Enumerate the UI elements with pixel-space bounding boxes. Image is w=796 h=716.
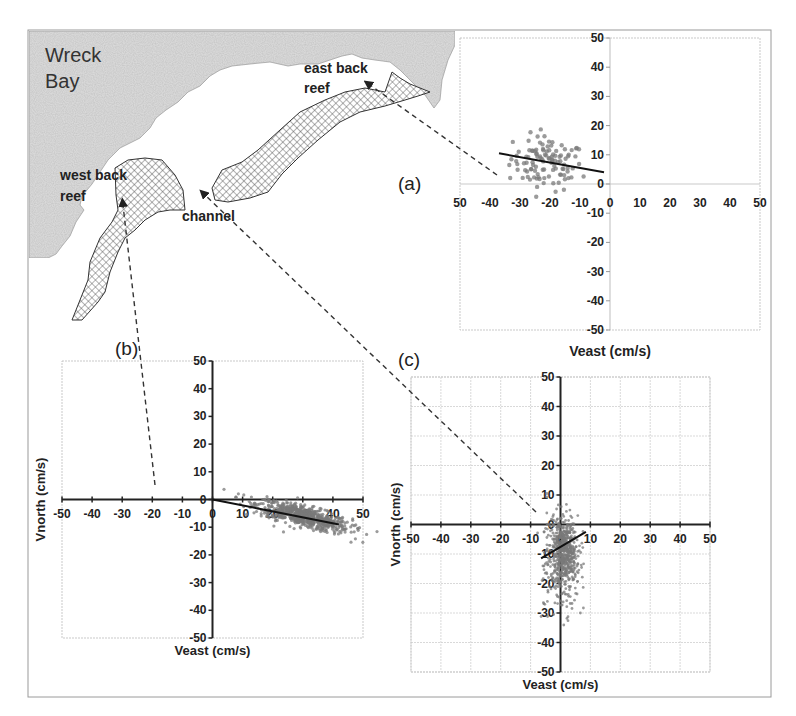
y-tick-label: -10: [587, 206, 605, 220]
figure-canvas: Wreck Bay east back reef west back reef …: [0, 0, 796, 716]
y-tick-label: 30: [193, 409, 207, 423]
x-tick-label: -40: [481, 196, 499, 210]
y-axis-label: Vnorth (cm/s): [33, 458, 48, 542]
x-axis-label: Veast (cm/s): [175, 643, 251, 658]
panel-label-c: (c): [398, 349, 420, 370]
x-tick-label: 50: [703, 532, 717, 546]
x-tick-label: 30: [693, 196, 707, 210]
svg-text:reef: reef: [60, 188, 86, 204]
y-tick-label: -30: [189, 576, 207, 590]
x-tick-label: 20: [614, 532, 628, 546]
x-tick-label: 40: [673, 532, 687, 546]
x-tick-label: 50: [356, 507, 370, 521]
y-tick-label: 40: [193, 382, 207, 396]
x-tick-label: 10: [633, 196, 647, 210]
y-tick-label: -50: [587, 323, 605, 337]
x-tick-label: 50: [453, 196, 467, 210]
y-tick-label: 50: [591, 31, 605, 45]
map-title-line-2: Bay: [45, 70, 79, 92]
y-tick-label: -40: [189, 603, 207, 617]
x-axis-label: Veast (cm/s): [569, 343, 651, 359]
x-tick-label: -50: [53, 507, 71, 521]
y-tick-label: 10: [591, 148, 605, 162]
y-tick-label: 10: [193, 465, 207, 479]
y-tick-label: 30: [591, 89, 605, 103]
figure: Wreck Bay east back reef west back reef …: [0, 0, 796, 716]
y-tick-label: 50: [193, 354, 207, 368]
x-tick-label: -40: [83, 507, 101, 521]
y-tick-label: 40: [541, 400, 555, 414]
map: Wreck Bay east back reef west back reef …: [29, 31, 455, 370]
map-title-line-1: Wreck: [45, 44, 102, 66]
panel-label-a: (a): [398, 173, 421, 194]
x-tick-label: 50: [753, 196, 767, 210]
y-tick-label: -20: [587, 235, 605, 249]
x-tick-label: -20: [492, 532, 510, 546]
x-tick-label: 30: [644, 532, 658, 546]
y-axis-label: Vnorth (cm/s): [388, 483, 403, 567]
y-tick-label: 30: [541, 429, 555, 443]
x-tick-label: -30: [462, 532, 480, 546]
svg-text:east back: east back: [304, 60, 368, 76]
svg-text:reef: reef: [304, 80, 330, 96]
y-tick-label: 20: [193, 437, 207, 451]
x-tick-label: 40: [723, 196, 737, 210]
y-tick-label: -40: [587, 294, 605, 308]
y-tick-label: -30: [587, 265, 605, 279]
y-tick-label: 10: [541, 488, 555, 502]
y-tick-label: 40: [591, 60, 605, 74]
x-tick-label: 20: [663, 196, 677, 210]
x-tick-label: 0: [607, 196, 614, 210]
y-tick-label: -40: [537, 636, 555, 650]
y-tick-label: 50: [541, 370, 555, 384]
panel-label-b: (b): [115, 338, 138, 359]
x-tick-label: 0: [209, 507, 216, 521]
x-tick-label: -50: [402, 532, 420, 546]
x-tick-label: -30: [114, 507, 132, 521]
x-tick-label: -20: [541, 196, 559, 210]
y-tick-label: -20: [189, 548, 207, 562]
chart-b: -50-40-30-20-100102030405050403020100-10…: [33, 354, 379, 658]
x-tick-label: -10: [174, 507, 192, 521]
x-tick-label: -20: [144, 507, 162, 521]
y-tick-label: -10: [189, 520, 207, 534]
chart-a: 50-40-30-20-100102030405050403020100-10-…: [453, 31, 767, 359]
y-tick-label: 0: [200, 493, 207, 507]
x-tick-label: -30: [511, 196, 529, 210]
y-tick-label: -30: [537, 606, 555, 620]
y-tick-label: 20: [541, 459, 555, 473]
x-axis-label: Veast (cm/s): [523, 677, 599, 692]
y-tick-label: 20: [591, 119, 605, 133]
svg-text:west back: west back: [59, 167, 127, 183]
x-tick-label: -40: [432, 532, 450, 546]
x-tick-label: 10: [584, 532, 598, 546]
y-tick-label: 0: [597, 177, 604, 191]
